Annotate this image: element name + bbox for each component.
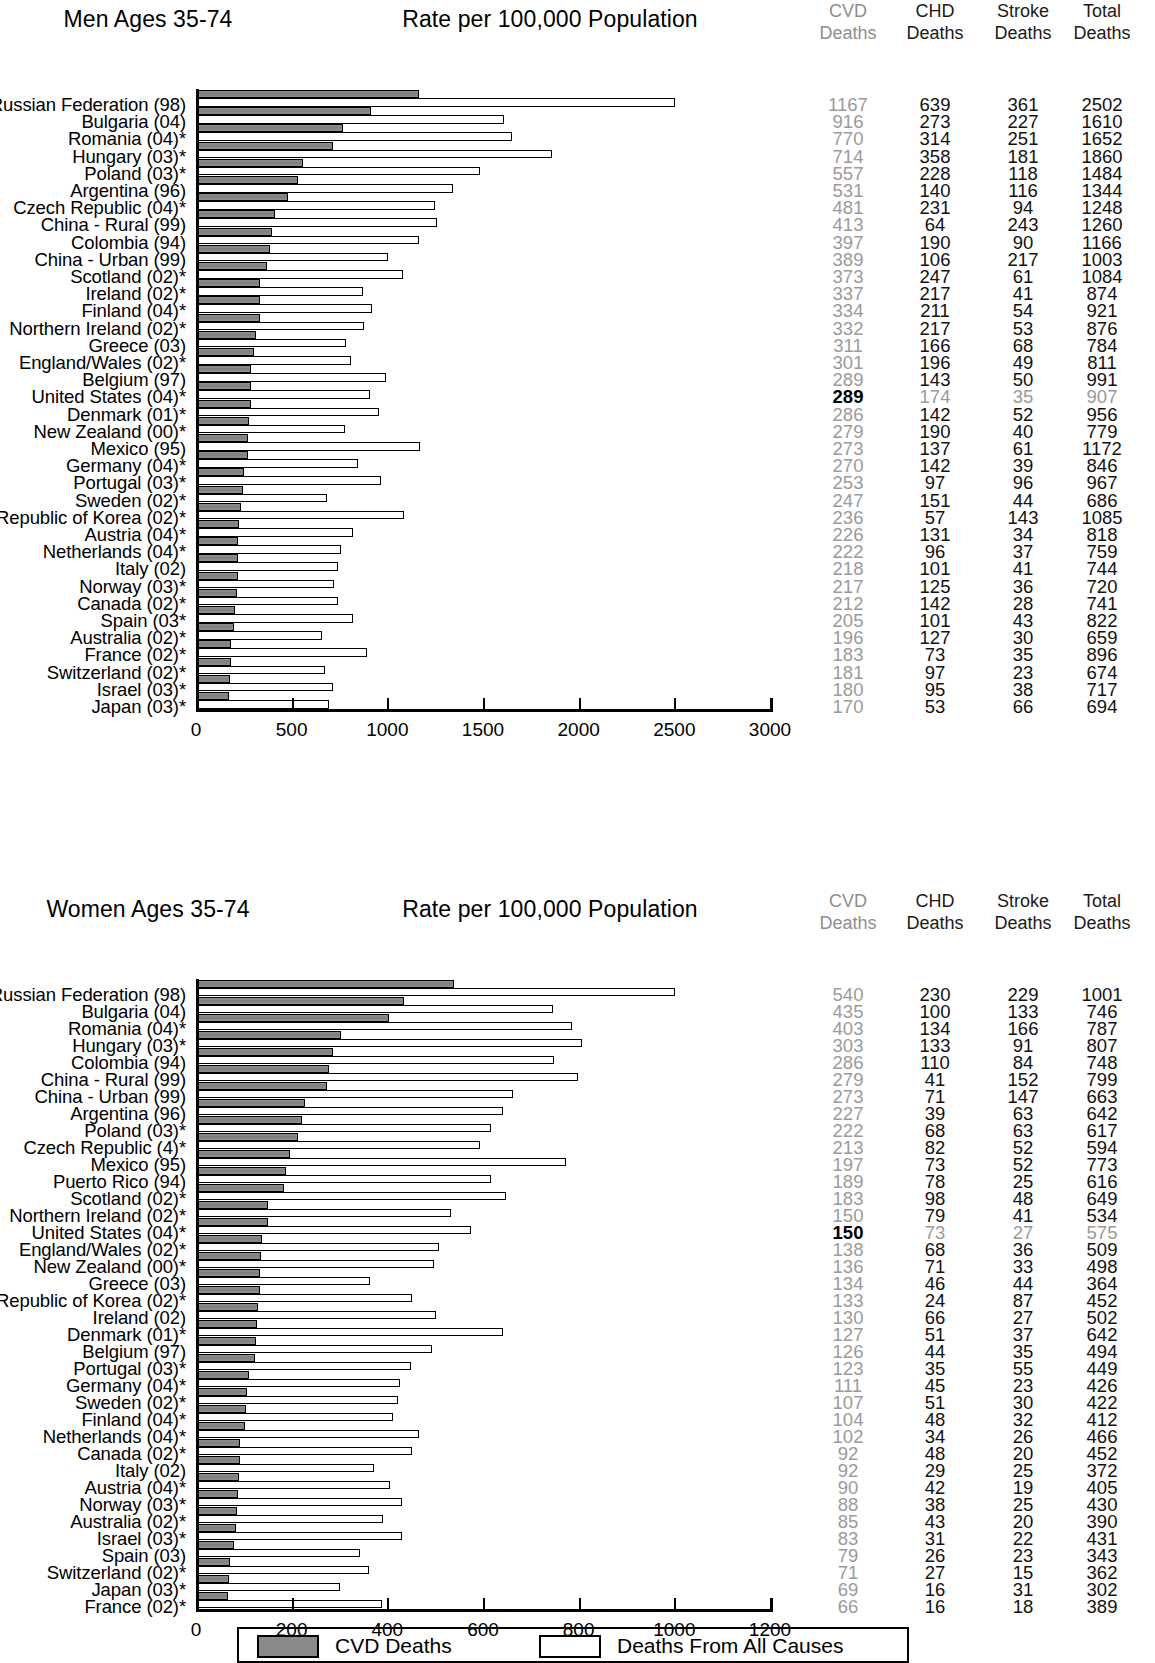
bar-cvd bbox=[196, 1422, 245, 1430]
bar-total bbox=[196, 1260, 434, 1269]
bar-total bbox=[196, 597, 338, 606]
bar-cvd bbox=[196, 1575, 229, 1583]
x-axis-tick-label: 1500 bbox=[443, 719, 523, 741]
bar-cvd bbox=[196, 1439, 240, 1447]
chart-legend: CVD Deaths Deaths From All Causes bbox=[237, 1627, 909, 1663]
bar-total bbox=[196, 115, 504, 124]
bar-total bbox=[196, 511, 404, 520]
bar-total bbox=[196, 1022, 572, 1031]
bar-cvd bbox=[196, 503, 241, 511]
bar-cvd bbox=[196, 1133, 298, 1141]
x-axis-tick-label: 0 bbox=[156, 719, 236, 741]
women-col-total-line2: Deaths bbox=[1052, 912, 1152, 934]
bar-cvd bbox=[196, 365, 251, 373]
bar-cvd bbox=[196, 1371, 249, 1379]
legend-label-all-causes: Deaths From All Causes bbox=[617, 1634, 843, 1658]
x-axis-line bbox=[196, 709, 773, 712]
x-axis-tick-label: 500 bbox=[252, 719, 332, 741]
bar-cvd bbox=[196, 1286, 260, 1294]
bar-total bbox=[196, 98, 675, 107]
bar-cvd bbox=[196, 1337, 256, 1345]
bar-cvd bbox=[196, 1201, 268, 1209]
bar-cvd bbox=[196, 314, 260, 322]
bar-total bbox=[196, 322, 364, 331]
bar-cvd bbox=[196, 1541, 234, 1549]
bar-cvd bbox=[196, 692, 229, 700]
bar-total bbox=[196, 459, 358, 468]
bar-cvd bbox=[196, 623, 234, 631]
bar-total bbox=[196, 270, 403, 279]
bar-total bbox=[196, 631, 322, 640]
x-axis-tick bbox=[483, 1598, 485, 1609]
bar-total bbox=[196, 1481, 390, 1490]
bar-cvd bbox=[196, 1592, 228, 1600]
bar-total bbox=[196, 1090, 513, 1099]
bar-total bbox=[196, 988, 675, 997]
bar-cvd bbox=[196, 640, 231, 648]
bar-cvd bbox=[196, 606, 235, 614]
bar-cvd bbox=[196, 658, 231, 666]
bar-cvd bbox=[196, 1014, 389, 1022]
bar-total bbox=[196, 1056, 554, 1065]
bar-cvd bbox=[196, 124, 343, 132]
bar-total bbox=[196, 1447, 412, 1456]
bar-total bbox=[196, 356, 351, 365]
women-col-cvd-line1: CVD bbox=[829, 891, 867, 911]
x-axis-tick-label: 3000 bbox=[730, 719, 810, 741]
x-axis-end-cap bbox=[770, 1598, 773, 1612]
bar-total bbox=[196, 648, 367, 657]
bar-cvd bbox=[196, 1388, 247, 1396]
legend-swatch-all-causes-icon bbox=[539, 1635, 601, 1658]
x-axis-tick bbox=[674, 1598, 676, 1609]
bar-total bbox=[196, 408, 379, 417]
bar-total bbox=[196, 1532, 402, 1541]
men-col-chd-line1: CHD bbox=[916, 1, 955, 21]
bar-total bbox=[196, 494, 327, 503]
bar-cvd bbox=[196, 279, 260, 287]
bar-total bbox=[196, 150, 552, 159]
bar-cvd bbox=[196, 1456, 240, 1464]
bar-total bbox=[196, 1498, 402, 1507]
bar-total bbox=[196, 1277, 370, 1286]
bar-cvd bbox=[196, 451, 248, 459]
bar-cvd bbox=[196, 980, 454, 988]
bar-total bbox=[196, 1600, 382, 1609]
bar-total bbox=[196, 614, 353, 623]
bar-cvd bbox=[196, 554, 238, 562]
bar-cvd bbox=[196, 193, 288, 201]
x-axis-tick-label: 2500 bbox=[634, 719, 714, 741]
women-col-chd-line1: CHD bbox=[916, 891, 955, 911]
bar-total bbox=[196, 236, 419, 245]
bar-total bbox=[196, 1005, 553, 1014]
bar-cvd bbox=[196, 537, 238, 545]
bar-total bbox=[196, 218, 437, 227]
women-panel-header: Women Ages 35-74 Rate per 100,000 Popula… bbox=[0, 890, 1155, 930]
bar-total bbox=[196, 132, 512, 141]
legend-item-cvd: CVD Deaths bbox=[257, 1634, 452, 1658]
bar-cvd bbox=[196, 1031, 341, 1039]
bar-total bbox=[196, 1141, 480, 1150]
bar-cvd bbox=[196, 1490, 238, 1498]
bar-total bbox=[196, 1328, 503, 1337]
bar-total bbox=[196, 201, 435, 210]
bar-cvd bbox=[196, 1082, 327, 1090]
bar-cvd bbox=[196, 228, 272, 236]
bar-cvd bbox=[196, 1524, 236, 1532]
bar-cvd bbox=[196, 142, 333, 150]
bar-total bbox=[196, 287, 363, 296]
category-label: Japan (03)* bbox=[91, 698, 186, 717]
bar-cvd bbox=[196, 1048, 333, 1056]
x-axis-tick-label: 1000 bbox=[347, 719, 427, 741]
bar-total bbox=[196, 184, 453, 193]
x-axis-tick bbox=[387, 698, 389, 709]
bar-cvd bbox=[196, 1218, 268, 1226]
bar-cvd bbox=[196, 210, 275, 218]
bar-total bbox=[196, 1430, 419, 1439]
bar-cvd bbox=[196, 176, 298, 184]
bar-cvd bbox=[196, 1116, 302, 1124]
bar-total bbox=[196, 1464, 374, 1473]
bar-total bbox=[196, 1243, 439, 1252]
category-label: France (02)* bbox=[84, 1598, 186, 1617]
bar-total bbox=[196, 1073, 578, 1082]
men-col-cvd-line1: CVD bbox=[829, 1, 867, 21]
